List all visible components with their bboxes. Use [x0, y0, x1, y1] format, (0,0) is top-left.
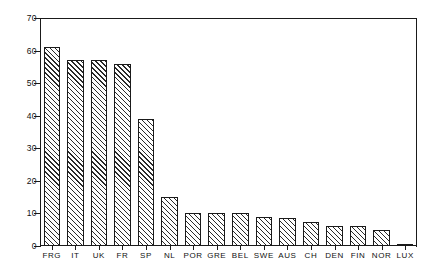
x-axis-tick-label: POR [184, 252, 203, 260]
x-axis-tick-mark [311, 246, 312, 250]
x-axis-tick-mark [405, 246, 406, 250]
bar [326, 226, 342, 246]
y-axis-tick-label: 20 [27, 177, 37, 186]
x-axis-tick-label: GRE [207, 252, 226, 260]
bar [303, 222, 319, 246]
bar [114, 64, 130, 246]
x-axis-tick-label: BEL [232, 252, 249, 260]
x-axis-tick-mark [240, 246, 241, 250]
x-axis-tick-label: IT [71, 252, 79, 260]
x-axis-tick-label: NL [164, 252, 175, 260]
y-axis-tick-label: 50 [27, 79, 37, 88]
x-axis: FRGITUKFRSPNLPORGREBELSWEAUSCHDENFINNORL… [40, 246, 417, 274]
x-axis-tick-mark [146, 246, 147, 250]
bar [185, 213, 201, 246]
plot-area: 010203040506070 [40, 18, 417, 246]
bar [67, 60, 83, 246]
x-axis-tick-mark [217, 246, 218, 250]
x-axis-tick-mark [382, 246, 383, 250]
x-axis-tick-mark [193, 246, 194, 250]
x-axis-tick-mark [122, 246, 123, 250]
x-axis-tick-mark [358, 246, 359, 250]
bar [44, 47, 60, 246]
y-axis-tick-label: 0 [32, 242, 37, 251]
x-axis-tick-mark [52, 246, 53, 250]
bar [279, 218, 295, 246]
x-axis-tick-label: AUS [278, 252, 296, 260]
x-axis-tick-label: SP [140, 252, 152, 260]
x-axis-tick-label: LUX [397, 252, 414, 260]
bar [208, 213, 224, 246]
bar [91, 60, 107, 246]
x-axis-tick-label: FRG [42, 252, 61, 260]
bar-chart: 010203040506070 FRGITUKFRSPNLPORGREBELSW… [0, 0, 445, 274]
bar-series [40, 18, 417, 246]
x-axis-tick-mark [264, 246, 265, 250]
x-axis-tick-mark [170, 246, 171, 250]
x-axis-tick-label: FR [117, 252, 129, 260]
x-axis-tick-mark [287, 246, 288, 250]
y-axis-tick-label: 70 [27, 14, 37, 23]
x-axis-tick-mark [99, 246, 100, 250]
x-axis-tick-label: SWE [254, 252, 274, 260]
bar [161, 197, 177, 246]
x-axis-tick-label: FIN [351, 252, 366, 260]
x-axis-tick-mark [335, 246, 336, 250]
x-axis-tick-label: NOR [372, 252, 392, 260]
bar [138, 119, 154, 246]
y-axis-tick-label: 60 [27, 46, 37, 55]
bar [256, 217, 272, 246]
bar [373, 230, 389, 246]
x-axis-tick-label: DEN [325, 252, 344, 260]
x-axis-tick-label: UK [93, 252, 105, 260]
x-axis-tick-label: CH [305, 252, 318, 260]
bar [350, 226, 366, 246]
y-axis-tick-label: 30 [27, 144, 37, 153]
y-axis-tick-label: 40 [27, 111, 37, 120]
y-axis-tick-label: 10 [27, 209, 37, 218]
x-axis-tick-mark [75, 246, 76, 250]
bar [232, 213, 248, 246]
